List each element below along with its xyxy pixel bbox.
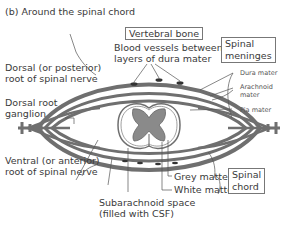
- label-vertebral-bone: Vertebral bone: [125, 27, 203, 40]
- label-blood-vessels: Blood vessels between layers of dura mat…: [114, 42, 223, 64]
- label-dorsal-root-ganglion: Dorsal root ganglion: [5, 97, 58, 119]
- blood-vessel: [156, 78, 163, 82]
- blood-vessel: [131, 82, 138, 86]
- label-grey-matter: Grey matter: [174, 171, 232, 182]
- label-pia-mater: Pia mater: [240, 106, 271, 114]
- label-arachnoid-mater: Arachnoid mater: [240, 83, 273, 99]
- label-subarachnoid-space: Subarachnoid space (filled with CSF): [99, 197, 195, 219]
- label-dura-mater: Dura mater: [240, 69, 277, 77]
- label-dorsal-root: Dorsal (or posterior) root of spinal ner…: [5, 62, 101, 84]
- diagram-title: (b) Around the spinal chord: [5, 6, 135, 17]
- blood-vessel: [177, 81, 184, 85]
- label-spinal-chord: Spinal chord: [228, 168, 265, 194]
- label-ventral-root: Ventral (or anterior) root of spinal ner…: [5, 155, 100, 177]
- dorsal-root-ganglion: [33, 124, 43, 132]
- label-spinal-meninges: Spinal meninges: [221, 37, 276, 63]
